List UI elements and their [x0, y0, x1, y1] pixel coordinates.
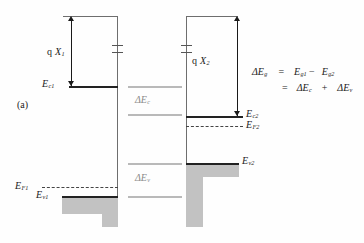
affinity-arrow-head-up-right [234, 16, 240, 21]
affinity-sub-right: 2 [206, 59, 209, 66]
material-boundary-line-left [117, 16, 118, 197]
ec1-sub: c1 [48, 82, 54, 89]
valence-band-label-left: Ev1 [36, 190, 48, 200]
delta-ec-label: ΔEc [135, 95, 150, 105]
eg2-symbol: E [322, 66, 328, 77]
valence-band-fill-right [186, 165, 239, 177]
delta-ev-label: ΔEv [135, 173, 150, 183]
delta-ev-eq-sub: v [349, 86, 352, 93]
delta-ec-eq-symbol: ΔE [297, 82, 309, 93]
ef2-sub: F2 [252, 123, 259, 130]
vacuum-tick-upper-right-cell [181, 45, 192, 46]
delta-ev-upper-guide [128, 163, 182, 165]
eg2-sub: g2 [328, 70, 334, 77]
fermi-level-line-left [42, 187, 118, 188]
bandgap-difference-equation: ΔEg = Eg1 − Eg2 = ΔEc + ΔEv [252, 64, 352, 95]
affinity-q-right: q [192, 55, 197, 66]
delta-eg-symbol: ΔE [252, 66, 264, 77]
affinity-sub-left: 1 [61, 50, 64, 57]
delta-eg-sub: g [264, 70, 267, 77]
delta-ec-upper-guide [128, 86, 182, 88]
electron-affinity-label-left: qX1 [47, 47, 65, 57]
figure-caption: (a) [17, 100, 28, 110]
ev1-sub: v1 [42, 193, 48, 200]
valence-band-fill-left [62, 198, 102, 214]
conduction-band-edge-right [186, 116, 243, 118]
fermi-level-label-left: EF1 [15, 181, 28, 191]
equation-equals-2: = [282, 82, 288, 93]
vacuum-level-line-right [186, 16, 238, 17]
vacuum-tick-lower-left-cell [112, 52, 123, 53]
delta-ev-symbol: ΔE [135, 172, 147, 183]
delta-ev-sub: v [147, 176, 150, 183]
delta-ec-eq-sub: c [309, 86, 312, 93]
delta-ec-sub: c [147, 98, 150, 105]
ef1-sub: F1 [21, 184, 28, 191]
affinity-arrow-head-up-left [68, 16, 74, 21]
equation-line-2: = ΔEc + ΔEv [252, 80, 352, 96]
affinity-q-left: q [47, 46, 52, 57]
ec2-sub: c2 [252, 112, 258, 119]
valence-band-label-right: Ev2 [242, 156, 254, 166]
affinity-arrow-shaft-right [237, 18, 238, 116]
fermi-level-line-right [186, 126, 243, 127]
delta-ev-eq-symbol: ΔE [337, 82, 349, 93]
delta-ec-symbol: ΔE [135, 94, 147, 105]
equation-line-1: ΔEg = Eg1 − Eg2 [252, 64, 352, 80]
affinity-arrow-shaft-left [71, 18, 72, 86]
vacuum-tick-upper-left-cell [112, 45, 123, 46]
fermi-level-label-right: EF2 [246, 120, 259, 130]
conduction-band-label-left: Ec1 [42, 79, 54, 89]
equation-equals-1: = [278, 66, 284, 77]
band-diagram-figure: qX1 Ec1 EF1 Ev1 (a) ΔEc ΔEv qX2 [0, 0, 364, 243]
eg1-sub: g1 [300, 70, 306, 77]
delta-ec-lower-guide [128, 114, 182, 116]
equation-plus: + [322, 82, 328, 93]
vacuum-tick-lower-right-cell [181, 52, 192, 53]
equation-minus: − [309, 66, 315, 77]
valence-band-fill-right-step [186, 177, 203, 227]
conduction-band-label-right: Ec2 [246, 109, 258, 119]
ev2-sub: v2 [248, 159, 254, 166]
delta-ev-lower-guide [128, 196, 182, 198]
valence-band-fill-left-step [102, 198, 118, 227]
electron-affinity-label-right: qX2 [192, 56, 210, 66]
conduction-band-edge-left [69, 86, 118, 88]
